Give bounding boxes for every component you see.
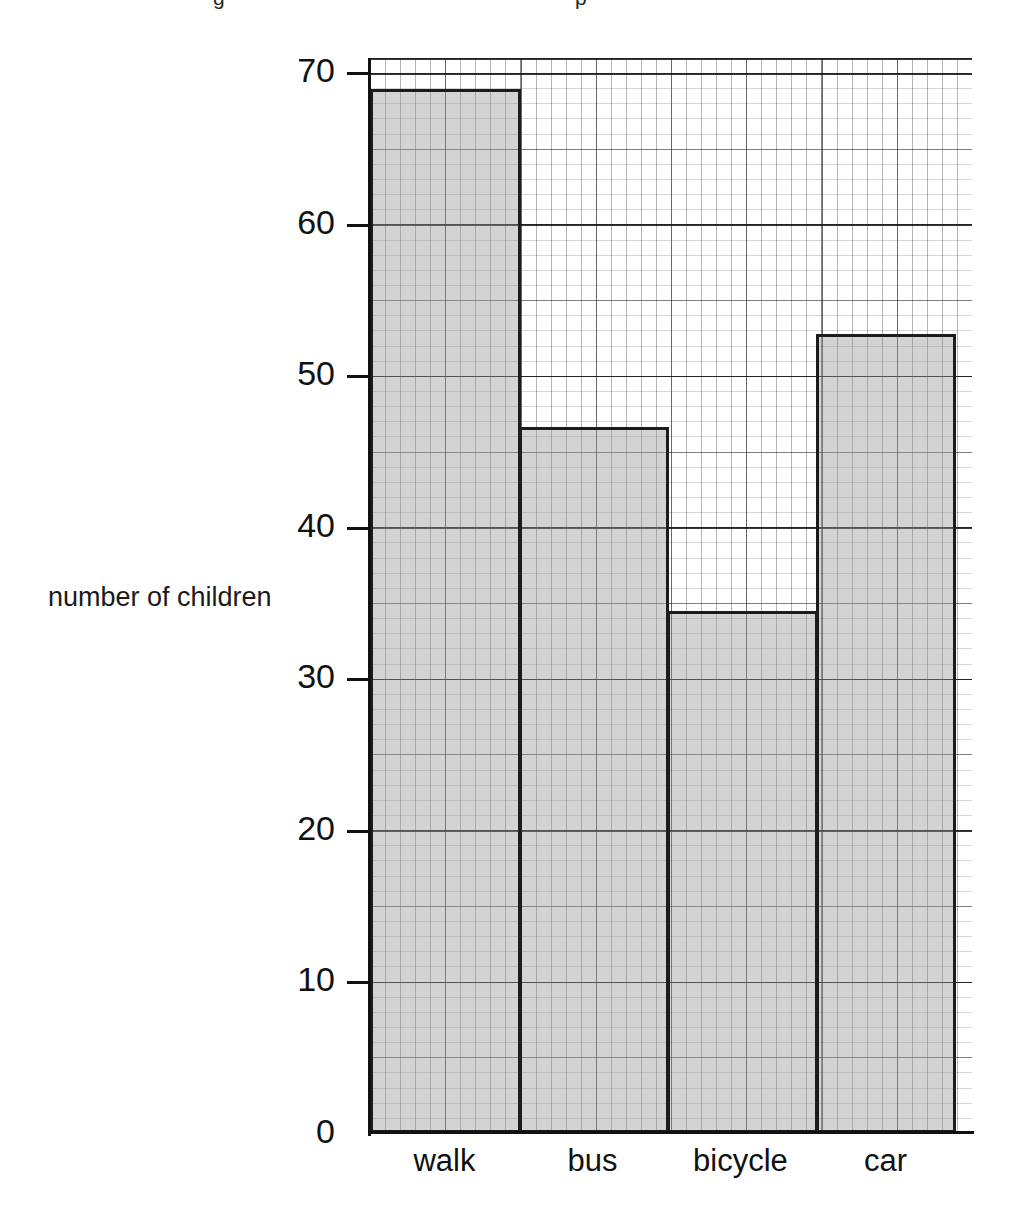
x-axis-line	[368, 1131, 974, 1134]
y-tick-label-60: 60	[255, 203, 335, 242]
x-category-label-bus: bus	[519, 1143, 666, 1179]
y-tick-label-0: 0	[255, 1112, 335, 1151]
y-tick-mark-40	[347, 527, 369, 530]
y-tick-mark-50	[347, 375, 369, 378]
y-tick-mark-20	[347, 830, 369, 833]
y-axis-line	[368, 58, 371, 1136]
x-category-label-car: car	[815, 1143, 956, 1179]
cropped-header-remnant: g p	[0, 0, 1027, 10]
y-tick-mark-60	[347, 224, 369, 227]
y-tick-label-40: 40	[255, 506, 335, 545]
y-tick-mark-30	[347, 678, 369, 681]
y-tick-mark-70	[347, 72, 369, 75]
y-tick-label-30: 30	[255, 657, 335, 696]
bar-bus[interactable]	[519, 427, 669, 1133]
chart-page: g p number of children 70 60 50 40 30 20…	[0, 0, 1027, 1216]
header-remnant-fragment-2: p	[575, 0, 587, 10]
y-tick-label-50: 50	[255, 354, 335, 393]
y-tick-label-70: 70	[255, 51, 335, 90]
y-tick-label-10: 10	[255, 960, 335, 999]
bar-car[interactable]	[816, 334, 956, 1133]
x-category-label-walk: walk	[370, 1143, 519, 1179]
y-tick-label-20: 20	[255, 809, 335, 848]
bar-bicycle[interactable]	[667, 611, 818, 1133]
header-remnant-fragment-1: g	[213, 0, 225, 10]
bar-walk[interactable]	[370, 89, 521, 1133]
plot-area	[370, 58, 972, 1133]
y-tick-mark-10	[347, 981, 369, 984]
y-axis-title: number of children	[48, 582, 272, 613]
x-category-label-bicycle: bicycle	[666, 1143, 815, 1179]
